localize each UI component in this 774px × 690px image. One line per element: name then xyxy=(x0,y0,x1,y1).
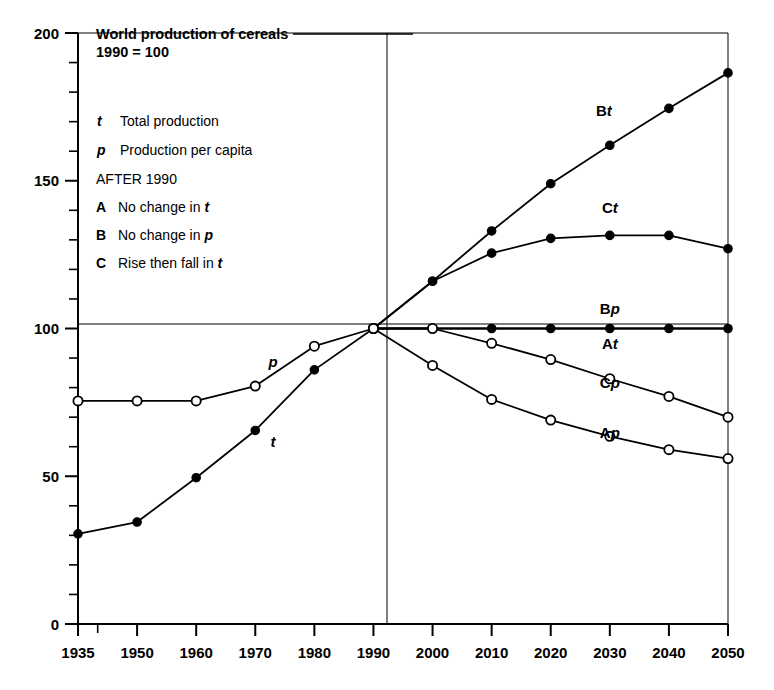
data-point-Ap xyxy=(664,445,673,454)
data-point-t xyxy=(310,366,318,374)
data-point-p xyxy=(132,396,141,405)
data-point-Bt xyxy=(547,180,555,188)
data-point-p xyxy=(251,382,260,391)
legend: t Total production p Production per capi… xyxy=(96,113,253,271)
chart-subtitle: 1990 = 100 xyxy=(96,44,169,60)
series-Cp xyxy=(369,324,733,422)
data-point-Cp xyxy=(546,355,555,364)
data-point-Ap xyxy=(723,454,732,463)
data-point-Cp xyxy=(428,324,437,333)
curve-label-At: At xyxy=(602,335,619,352)
x-tick-label: 2000 xyxy=(416,644,449,661)
data-point-Ct xyxy=(724,245,732,253)
x-tick-label: 1950 xyxy=(120,644,153,661)
series-Ct xyxy=(369,231,732,332)
legend-desc-A: No change in t xyxy=(118,199,210,215)
curve-label-Cp: Cp xyxy=(600,374,620,391)
series-line-Ap xyxy=(373,329,728,459)
x-tick-label: 2010 xyxy=(475,644,508,661)
chart-container: 050100150200 193519501960197019801990200… xyxy=(0,0,774,690)
data-point-p xyxy=(73,396,82,405)
series-line-Ct xyxy=(373,235,728,328)
x-tick-label: 1960 xyxy=(179,644,212,661)
y-axis-tick-labels: 050100150200 xyxy=(34,25,59,633)
series-p xyxy=(73,324,378,406)
series-line-Bt xyxy=(373,73,728,329)
x-axis-ticks xyxy=(78,624,728,636)
legend-desc-B: No change in p xyxy=(118,227,213,243)
series-line-p xyxy=(78,329,373,401)
data-point-Ap xyxy=(428,361,437,370)
data-point-Ct xyxy=(547,234,555,242)
legend-section-heading: AFTER 1990 xyxy=(96,171,177,187)
x-tick-label: 1970 xyxy=(239,644,272,661)
x-axis-tick-labels: 1935195019601970198019902000201020202030… xyxy=(61,644,744,661)
data-point-Bt xyxy=(665,104,673,112)
data-point-Ct xyxy=(665,231,673,239)
data-point-p xyxy=(310,342,319,351)
curve-label-Ap: Ap xyxy=(600,424,620,441)
y-tick-label: 200 xyxy=(34,25,59,42)
data-point-Ct xyxy=(428,277,436,285)
legend-desc-t: Total production xyxy=(120,113,219,129)
data-point-Bt xyxy=(724,69,732,77)
curve-label-t: t xyxy=(271,433,277,450)
data-point-Ct xyxy=(606,231,614,239)
data-point-Bt xyxy=(487,227,495,235)
y-tick-label: 0 xyxy=(51,616,59,633)
y-tick-label: 150 xyxy=(34,172,59,189)
data-point-Ap xyxy=(487,395,496,404)
x-tick-label: 2030 xyxy=(593,644,626,661)
legend-key-B: B xyxy=(96,227,106,243)
data-point-Ap xyxy=(546,416,555,425)
curve-label-Bt: Bt xyxy=(596,102,613,119)
curve-label-Ct: Ct xyxy=(602,199,619,216)
cereal-production-chart: 050100150200 193519501960197019801990200… xyxy=(0,0,774,690)
y-tick-label: 100 xyxy=(34,320,59,337)
chart-title: World production of cereals xyxy=(96,26,288,42)
series-Bt xyxy=(369,69,732,333)
data-point-p xyxy=(192,396,201,405)
data-point-Ap xyxy=(369,324,378,333)
series-t xyxy=(74,324,378,538)
legend-key-p: p xyxy=(96,142,106,158)
legend-desc-p: Production per capita xyxy=(120,142,253,158)
x-tick-label: 1980 xyxy=(298,644,331,661)
x-tick-label: 2040 xyxy=(652,644,685,661)
x-tick-label: 1990 xyxy=(357,644,390,661)
curve-label-p: p xyxy=(267,353,277,370)
legend-key-A: A xyxy=(96,199,106,215)
data-point-Cp xyxy=(723,413,732,422)
x-tick-label: 1935 xyxy=(61,644,94,661)
series-Ap xyxy=(369,324,733,463)
series-layer xyxy=(73,69,732,538)
legend-key-t: t xyxy=(97,113,103,129)
legend-desc-C: Rise then fall in t xyxy=(118,255,224,271)
data-point-Ct xyxy=(487,249,495,257)
legend-key-C: C xyxy=(96,255,106,271)
series-line-t xyxy=(78,329,373,534)
y-tick-label: 50 xyxy=(42,468,59,485)
data-point-Cp xyxy=(664,392,673,401)
data-point-t xyxy=(192,474,200,482)
x-tick-label: 2020 xyxy=(534,644,567,661)
data-point-t xyxy=(133,518,141,526)
data-point-Bt xyxy=(606,141,614,149)
data-point-t xyxy=(251,426,259,434)
series-line-Cp xyxy=(373,329,728,418)
data-point-t xyxy=(74,530,82,538)
data-point-Cp xyxy=(487,339,496,348)
chart-title-block: World production of cereals 1990 = 100 xyxy=(96,26,413,60)
x-tick-label: 2050 xyxy=(711,644,744,661)
curve-label-Bp: Bp xyxy=(600,300,620,317)
